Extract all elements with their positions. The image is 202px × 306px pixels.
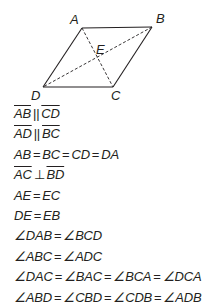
term: ∠ADB [163, 290, 201, 305]
term: ∠BCA [113, 269, 151, 284]
operator: = [102, 269, 113, 284]
segment: CD [41, 106, 59, 121]
term: ∠DAB [14, 228, 52, 243]
term: ∠DAC [14, 269, 53, 284]
property-statement: AB=BC=CD=DA [14, 145, 201, 165]
term: ∠CBD [63, 290, 102, 305]
term: AB [14, 147, 31, 162]
term: ∠CDB [113, 290, 152, 305]
term: DA [101, 147, 119, 162]
property-statement: ∠ABD=∠CBD=∠CDB=∠ADB [14, 288, 201, 306]
operator: = [60, 147, 71, 162]
operator: = [31, 188, 42, 203]
property-statement: ∠ABC=∠ADC [14, 247, 201, 267]
term: ∠ADC [63, 249, 102, 264]
vertex-label-c: C [111, 88, 121, 100]
operator: = [102, 290, 113, 305]
operator: = [152, 290, 163, 305]
term: BC [42, 147, 60, 162]
operator: = [52, 228, 63, 243]
property-statement: AC⊥BD [14, 165, 201, 185]
side-ab [82, 27, 152, 28]
term: EC [42, 188, 60, 203]
vertex-label-a: A [69, 12, 79, 27]
side-bc [113, 27, 152, 87]
segment: AC [14, 167, 32, 182]
operator: = [32, 208, 43, 223]
diagonal-bd [43, 27, 152, 87]
property-statement: AD||BC [14, 124, 201, 144]
property-statement: AE=EC [14, 186, 201, 206]
properties-list: AB||CDAD||BCAB=BC=CD=DAAC⊥BDAE=ECDE=EB∠D… [14, 104, 201, 306]
property-statement: DE=EB [14, 206, 201, 226]
segment: BC [42, 126, 60, 141]
rhombus-diagram: ABCDE [0, 0, 186, 100]
term: ∠BCD [63, 228, 102, 243]
property-statement: ∠DAC=∠BAC=∠BCA=∠DCA [14, 267, 201, 287]
term: EB [43, 208, 60, 223]
property-statement: ∠DAB=∠BCD [14, 226, 201, 246]
segment: AB [14, 106, 31, 121]
operator: = [52, 290, 63, 305]
term: AE [14, 188, 31, 203]
property-statement: AB||CD [14, 104, 201, 124]
segment: AD [14, 126, 32, 141]
vertex-label-d: D [31, 88, 40, 100]
operator: = [90, 147, 101, 162]
operator: ⊥ [32, 167, 47, 182]
operator: || [32, 126, 42, 141]
segment: BD [46, 167, 64, 182]
vertex-label-b: B [156, 11, 165, 26]
operator: = [53, 269, 64, 284]
term: ∠BAC [64, 269, 102, 284]
operator: || [31, 106, 41, 121]
side-da [43, 28, 82, 87]
term: ∠DCA [163, 269, 202, 284]
term: ∠ABD [14, 290, 52, 305]
operator: = [52, 249, 63, 264]
term: CD [71, 147, 89, 162]
operator: = [151, 269, 162, 284]
term: DE [14, 208, 32, 223]
vertex-label-e: E [96, 42, 105, 57]
term: ∠ABC [14, 249, 52, 264]
operator: = [31, 147, 42, 162]
